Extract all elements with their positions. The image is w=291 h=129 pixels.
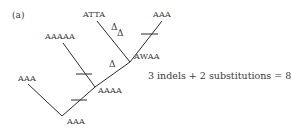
branch-aaa-left-to-root: [28, 84, 62, 116]
node-label-awaa: AWAA: [133, 52, 160, 61]
cost-summary: 3 indels + 2 substitutions = 8: [148, 70, 291, 81]
node-label-atta: ATTA: [82, 10, 105, 19]
node-label-aaa-root: AAA: [66, 117, 85, 126]
branch-aaaaa-to-aaaa: [63, 43, 95, 87]
branch-aaaa-to-root: [62, 87, 95, 116]
indel-delta-icon: Δ: [109, 59, 116, 69]
indel-delta-icon: Δ: [117, 28, 124, 38]
node-label-aaa-top: AAA: [152, 10, 171, 19]
panel-label: (a): [12, 10, 24, 20]
node-label-aaaaa: AAAAA: [44, 32, 75, 41]
node-label-aaaa: AAAA: [97, 86, 122, 95]
phylogenetic-tree-diagram: (a) ATTA AAA AWAA AAAAA AAAA AAA AAA Δ Δ…: [0, 0, 291, 129]
node-label-aaa-left: AAA: [17, 74, 36, 83]
